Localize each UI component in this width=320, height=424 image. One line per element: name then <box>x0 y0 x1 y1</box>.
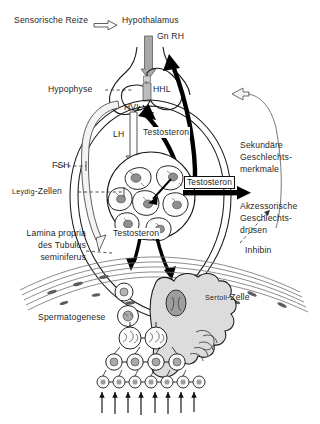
label-hypophyse: Hypophyse <box>48 84 92 95</box>
label-akzessorische-geschlechtsdruesen-line1: Akzessorische <box>240 201 297 212</box>
label-sekundaere-geschlechtsmerkmale-line3: merkmale <box>240 164 279 175</box>
label-hvl: HVL <box>124 102 141 113</box>
label-sekundaere-geschlechtsmerkmale-line1: Sekundäre <box>240 140 283 151</box>
label-testosteron-hypophysis: Testosteron <box>142 127 190 138</box>
label-akzessorische-geschlechtsdruesen-line2: Geschlechts- <box>240 213 292 224</box>
label-lamina-propria-line1: Lamina propria <box>0 228 86 239</box>
sertoli-rest-text: -Zelle <box>227 292 249 302</box>
label-hhl: HHL <box>153 84 171 95</box>
hpg-axis-diagram <box>0 0 320 424</box>
label-sertoli-zelle: Sertoli-Zelle <box>205 292 250 304</box>
leydig-rest-text: -Zellen <box>35 186 62 196</box>
label-leydig-zellen: Leydig-Zellen <box>12 186 62 198</box>
label-lamina-propria-line2: des Tubulus <box>0 240 86 251</box>
label-inhibin: Inhibin <box>245 245 271 256</box>
label-sensorische-reize: Sensorische Reize <box>14 15 88 26</box>
figure-canvas: Sensorische Reize Hypothalamus Gn RH Hyp… <box>0 0 320 424</box>
gnrh-arrow-icon <box>141 36 156 79</box>
germ-cell-row-spermatozoa-heads <box>97 370 205 388</box>
label-testosteron-systemic: Testosteron <box>184 176 235 189</box>
spermatozoa-release-arrows <box>102 392 194 415</box>
label-spermatogenese: Spermatogenese <box>38 312 106 323</box>
label-testosteron-tubule: Testosteron <box>112 228 160 239</box>
sensory-stimuli-arrow-icon <box>94 21 117 30</box>
label-lh: LH <box>113 129 124 140</box>
label-lamina-propria-line3: seminiferus <box>0 252 86 263</box>
neurosecretory-column-shape <box>143 76 151 101</box>
label-sekundaere-geschlechtsmerkmale-line2: Geschlechts- <box>240 152 292 163</box>
label-fsh: FSH <box>52 160 70 171</box>
leydig-smallcaps-text: Leydig <box>12 188 35 196</box>
label-hypothalamus: Hypothalamus <box>122 15 179 26</box>
sertoli-smallcaps-text: Sertoli <box>205 294 227 302</box>
testosterone-to-tubule-arrows <box>126 238 176 280</box>
label-akzessorische-geschlechtsdruesen-line3: drüsen <box>240 225 267 236</box>
label-gn-rh: Gn RH <box>157 31 184 42</box>
